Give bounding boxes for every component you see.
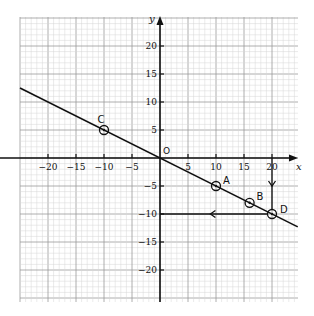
x-tick-label: 15 xyxy=(238,162,250,172)
x-tick-label: −15 xyxy=(67,162,86,172)
point-dot xyxy=(215,185,217,187)
y-tick-label: −10 xyxy=(138,209,157,219)
y-tick-label: −20 xyxy=(138,265,157,275)
chart-plot: xyO −20−15−10−551015202015105−5−10−15−20… xyxy=(0,0,314,316)
point-dot xyxy=(103,129,105,131)
origin-label: O xyxy=(163,146,170,156)
x-tick-label: −10 xyxy=(95,162,114,172)
x-tick-label: 10 xyxy=(210,162,222,172)
y-tick-label: −5 xyxy=(144,181,158,191)
grid xyxy=(20,17,298,302)
y-tick-label: 15 xyxy=(146,69,158,79)
point-label: A xyxy=(223,175,230,186)
y-axis-arrow-icon xyxy=(157,16,164,25)
y-axis-label: y xyxy=(148,13,155,24)
x-tick-label: −20 xyxy=(39,162,58,172)
y-tick-label: 5 xyxy=(151,125,157,135)
y-tick-label: 20 xyxy=(146,41,158,51)
point-dot xyxy=(248,202,250,204)
point-label: D xyxy=(280,204,288,215)
point-label: B xyxy=(257,191,264,202)
y-tick-label: 10 xyxy=(146,97,158,107)
point-label: C xyxy=(98,114,105,125)
x-tick-label: −5 xyxy=(125,162,139,172)
point-dot xyxy=(271,213,273,215)
x-axis-label: x xyxy=(296,161,302,172)
y-tick-label: −15 xyxy=(138,237,157,247)
